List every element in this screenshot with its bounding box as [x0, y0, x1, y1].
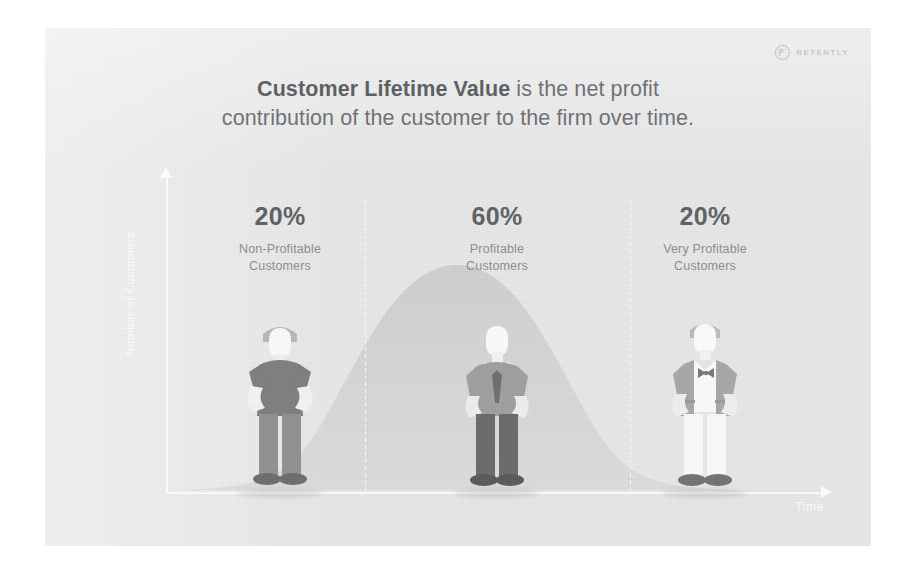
- figure-shadow: [454, 489, 540, 498]
- y-axis-line: [166, 176, 168, 494]
- screenshot-root: RETENTLY Customer Lifetime Value is the …: [0, 0, 911, 566]
- segment-very-profitable: 20% Very Profitable Customers: [610, 204, 800, 274]
- retently-logo-text: RETENTLY: [796, 48, 849, 57]
- segment-label-line1: Very Profitable: [663, 242, 747, 256]
- segment-label-line1: Profitable: [470, 242, 524, 256]
- segment-label-line2: Customers: [674, 259, 736, 273]
- retently-circle-logo-icon: [774, 44, 791, 61]
- headline-rest: is the net profit: [510, 77, 659, 101]
- segment-label-line2: Customers: [249, 259, 311, 273]
- headline-bold: Customer Lifetime Value: [257, 77, 510, 101]
- y-axis-label: Number of Customers: [124, 209, 136, 379]
- y-axis-arrow-icon: [160, 167, 172, 178]
- segment-label-line1: Non-Profitable: [239, 242, 321, 256]
- segment-label-line2: Customers: [466, 259, 528, 273]
- segment-percent: 60%: [402, 204, 592, 229]
- x-axis-label: Time: [795, 500, 824, 514]
- segment-non-profitable: 20% Non-Profitable Customers: [185, 204, 375, 274]
- figure-shadow: [237, 489, 323, 498]
- segment-profitable: 60% Profitable Customers: [402, 204, 592, 274]
- page-title: Customer Lifetime Value is the net profi…: [45, 75, 871, 133]
- x-axis-arrow-icon: [821, 486, 832, 498]
- business-customer-figure: [442, 308, 552, 494]
- segment-percent: 20%: [610, 204, 800, 229]
- headline-line2: contribution of the customer to the firm…: [222, 106, 694, 130]
- segment-label: Profitable Customers: [402, 241, 592, 274]
- clv-distribution-chart: Number of Customers Time 20% Non-Profita…: [105, 158, 811, 518]
- affluent-customer-figure: [650, 308, 760, 494]
- retently-logo: RETENTLY: [774, 44, 849, 61]
- segment-label: Very Profitable Customers: [610, 241, 800, 274]
- figure-shadow: [662, 489, 748, 498]
- slide-panel: RETENTLY Customer Lifetime Value is the …: [45, 28, 871, 546]
- casual-customer-figure: [225, 308, 335, 494]
- segment-percent: 20%: [185, 204, 375, 229]
- segment-label: Non-Profitable Customers: [185, 241, 375, 274]
